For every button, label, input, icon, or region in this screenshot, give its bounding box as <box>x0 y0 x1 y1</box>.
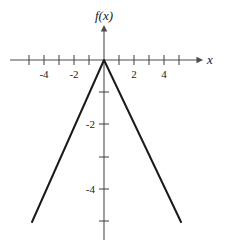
x-tick-label-4: 4 <box>161 68 167 80</box>
x-tick-label-2: 2 <box>131 68 137 80</box>
x-tick-label--4: -4 <box>39 68 49 80</box>
x-tick-label--2: -2 <box>69 68 78 80</box>
y-tick-label--2: -2 <box>86 118 95 130</box>
y-axis-label: f(x) <box>95 8 113 23</box>
x-axis-label: x <box>206 52 213 67</box>
y-tick-label--4: -4 <box>86 183 96 195</box>
function-curve <box>32 60 181 222</box>
graph-figure: -4 -2 2 4 -2 -4 x f(x) <box>0 0 225 245</box>
function-plot: -4 -2 2 4 -2 -4 x f(x) <box>0 0 225 245</box>
